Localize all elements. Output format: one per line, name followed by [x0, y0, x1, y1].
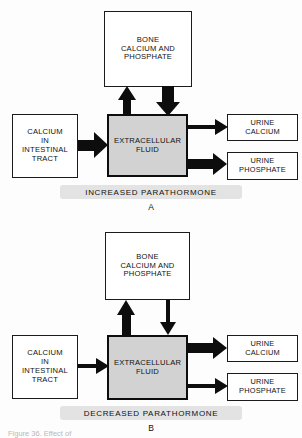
box-ecf-label-b: EXTRACELLULAR FLUID	[114, 359, 181, 377]
panel-a-increased-parathormone: BONE CALCIUM AND PHOSPHATE CALCIUM IN IN…	[0, 0, 302, 215]
arrow-intestinal-absorption-b	[78, 358, 110, 374]
arrow-urine-phosphate-excretion-a	[187, 153, 229, 175]
condition-label-a: INCREASED PARATHORMONE	[56, 188, 246, 197]
box-urine-phosphate-label-a: URINE PHOSPHATE	[239, 157, 286, 174]
arrow-bone-resorption-b	[117, 300, 137, 336]
box-bone-label-a: BONE CALCIUM AND PHOSPHATE	[121, 36, 175, 63]
panel-letter-b: B	[56, 423, 246, 433]
panel-letter-a: A	[56, 202, 246, 212]
arrow-bone-deposition-a	[156, 86, 180, 116]
box-calcium-intestinal-tract-b: CALCIUM IN INTESTINAL TRACT	[12, 335, 78, 399]
box-bone-calcium-phosphate-a: BONE CALCIUM AND PHOSPHATE	[104, 11, 192, 87]
arrow-bone-resorption-a	[118, 86, 136, 116]
box-source-label-b: CALCIUM IN INTESTINAL TRACT	[22, 349, 68, 385]
box-urine-calcium-label-b: URINE CALCIUM	[245, 340, 280, 357]
panel-b-decreased-parathormone: BONE CALCIUM AND PHOSPHATE CALCIUM IN IN…	[0, 218, 302, 433]
box-urine-calcium-b: URINE CALCIUM	[227, 335, 298, 362]
box-bone-calcium-phosphate-b: BONE CALCIUM AND PHOSPHATE	[105, 232, 190, 300]
box-calcium-intestinal-tract-a: CALCIUM IN INTESTINAL TRACT	[12, 114, 78, 178]
box-urine-phosphate-a: URINE PHOSPHATE	[227, 152, 298, 180]
arrow-urine-phosphate-excretion-b	[187, 378, 229, 394]
box-urine-phosphate-b: URINE PHOSPHATE	[227, 373, 298, 401]
box-extracellular-fluid-b: EXTRACELLULAR FLUID	[107, 335, 188, 400]
arrow-urine-calcium-excretion-a	[187, 119, 229, 135]
box-source-label-a: CALCIUM IN INTESTINAL TRACT	[22, 128, 68, 164]
arrow-bone-deposition-b	[160, 300, 176, 336]
box-extracellular-fluid-a: EXTRACELLULAR FLUID	[107, 114, 188, 177]
box-bone-label-b: BONE CALCIUM AND PHOSPHATE	[120, 253, 174, 280]
box-ecf-label-a: EXTRACELLULAR FLUID	[114, 137, 181, 155]
box-urine-calcium-a: URINE CALCIUM	[227, 114, 298, 141]
arrow-urine-calcium-excretion-b	[187, 337, 229, 359]
box-urine-phosphate-label-b: URINE PHOSPHATE	[239, 378, 286, 395]
box-urine-calcium-label-a: URINE CALCIUM	[245, 119, 280, 136]
arrow-intestinal-absorption-a	[78, 132, 108, 159]
condition-label-b: DECREASED PARATHORMONE	[56, 409, 246, 418]
